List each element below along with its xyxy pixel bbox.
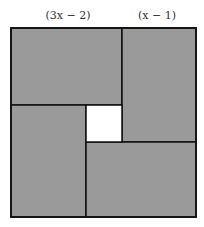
pinwheel-square-diagram bbox=[0, 0, 204, 227]
rect-top-left bbox=[11, 28, 122, 105]
rect-top-right bbox=[122, 28, 196, 142]
center-square bbox=[86, 105, 122, 142]
rect-bottom-left bbox=[11, 105, 86, 217]
rect-bottom-right bbox=[86, 142, 196, 217]
